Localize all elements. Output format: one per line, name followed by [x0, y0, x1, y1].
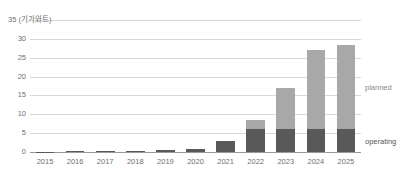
- bar-segment-operating-2018: [126, 151, 145, 152]
- x-tick-2017: 2017: [90, 157, 120, 167]
- bar-series-container: [30, 20, 361, 152]
- bar-group-2025: [337, 45, 356, 152]
- bar-segment-planned-2025: [337, 45, 356, 130]
- bar-segment-operating-2024: [307, 129, 326, 152]
- y-tick-10: 10: [0, 110, 26, 118]
- x-tick-2015: 2015: [30, 157, 60, 167]
- x-tick-2016: 2016: [60, 157, 90, 167]
- bar-group-2020: [186, 149, 205, 152]
- bar-group-2016: [66, 151, 85, 152]
- bar-group-2018: [126, 151, 145, 152]
- y-tick-5: 5: [0, 129, 26, 137]
- x-tick-2023: 2023: [271, 157, 301, 167]
- bar-segment-planned-2024: [307, 50, 326, 129]
- bar-segment-operating-2019: [156, 150, 175, 152]
- y-tick-20: 20: [0, 73, 26, 81]
- x-tick-2021: 2021: [211, 157, 241, 167]
- bar-segment-operating-2025: [337, 129, 356, 152]
- bar-group-2022: [246, 120, 265, 152]
- x-axis-labels: 2015201620172018201920202021202220232024…: [30, 157, 361, 171]
- bar-group-2021: [216, 141, 235, 152]
- y-tick-0: 0: [0, 148, 26, 156]
- bar-segment-operating-2023: [276, 129, 295, 152]
- bar-group-2019: [156, 150, 175, 152]
- bar-segment-operating-2022: [246, 129, 265, 152]
- bar-segment-planned-2022: [246, 120, 265, 129]
- bar-group-2024: [307, 50, 326, 152]
- x-tick-2024: 2024: [301, 157, 331, 167]
- x-tick-2022: 2022: [241, 157, 271, 167]
- y-tick-30: 30: [0, 35, 26, 43]
- y-tick-15: 15: [0, 91, 26, 99]
- bar-segment-operating-2016: [66, 151, 85, 152]
- legend-label-planned: planned: [365, 83, 392, 92]
- gigawatt-capacity-chart: 05101520253035 (기가와트) 201520162017201820…: [0, 0, 401, 180]
- legend-label-operating: operating: [365, 137, 396, 146]
- y-tick-25: 25: [0, 54, 26, 62]
- bar-group-2023: [276, 88, 295, 152]
- x-tick-2019: 2019: [150, 157, 180, 167]
- bar-segment-planned-2023: [276, 88, 295, 129]
- x-tick-2020: 2020: [180, 157, 210, 167]
- x-tick-2025: 2025: [331, 157, 361, 167]
- gridline-0: [30, 152, 361, 153]
- bar-segment-operating-2020: [186, 149, 205, 152]
- bar-group-2017: [96, 151, 115, 152]
- bar-segment-operating-2021: [216, 141, 235, 152]
- x-tick-2018: 2018: [120, 157, 150, 167]
- bar-segment-operating-2017: [96, 151, 115, 152]
